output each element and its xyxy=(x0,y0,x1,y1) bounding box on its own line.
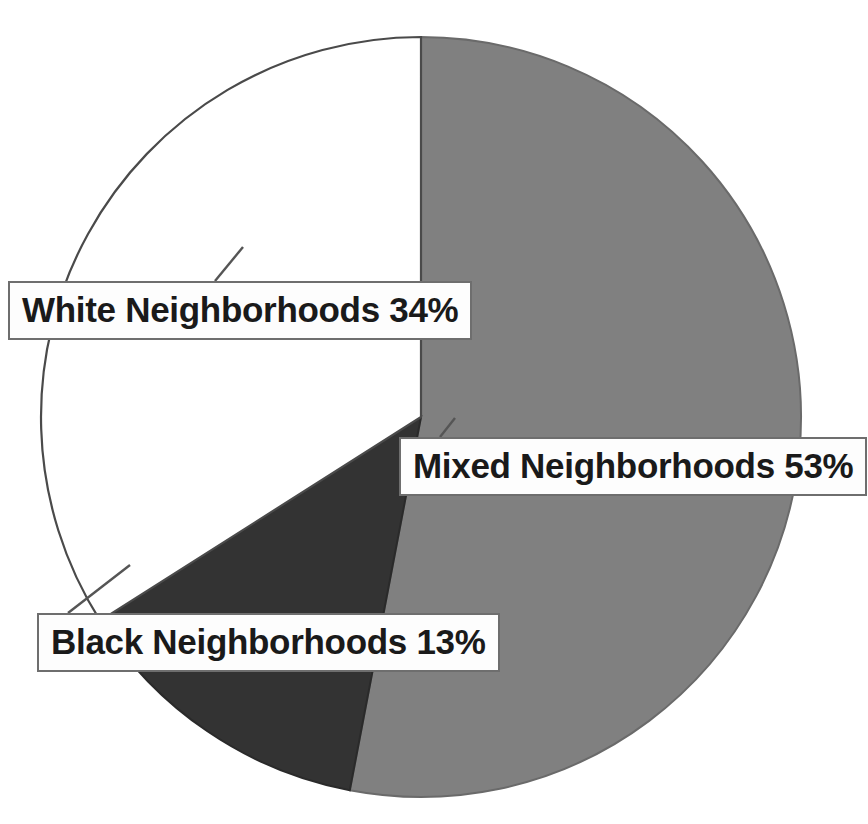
slice-label-white-neighborhoods: White Neighborhoods 34% xyxy=(8,281,472,340)
slice-label-mixed-neighborhoods: Mixed Neighborhoods 53% xyxy=(399,437,867,496)
slice-label-black-neighborhoods: Black Neighborhoods 13% xyxy=(37,613,500,672)
pie-chart-canvas xyxy=(0,0,868,824)
pie-chart-figure: White Neighborhoods 34% Mixed Neighborho… xyxy=(0,0,868,824)
